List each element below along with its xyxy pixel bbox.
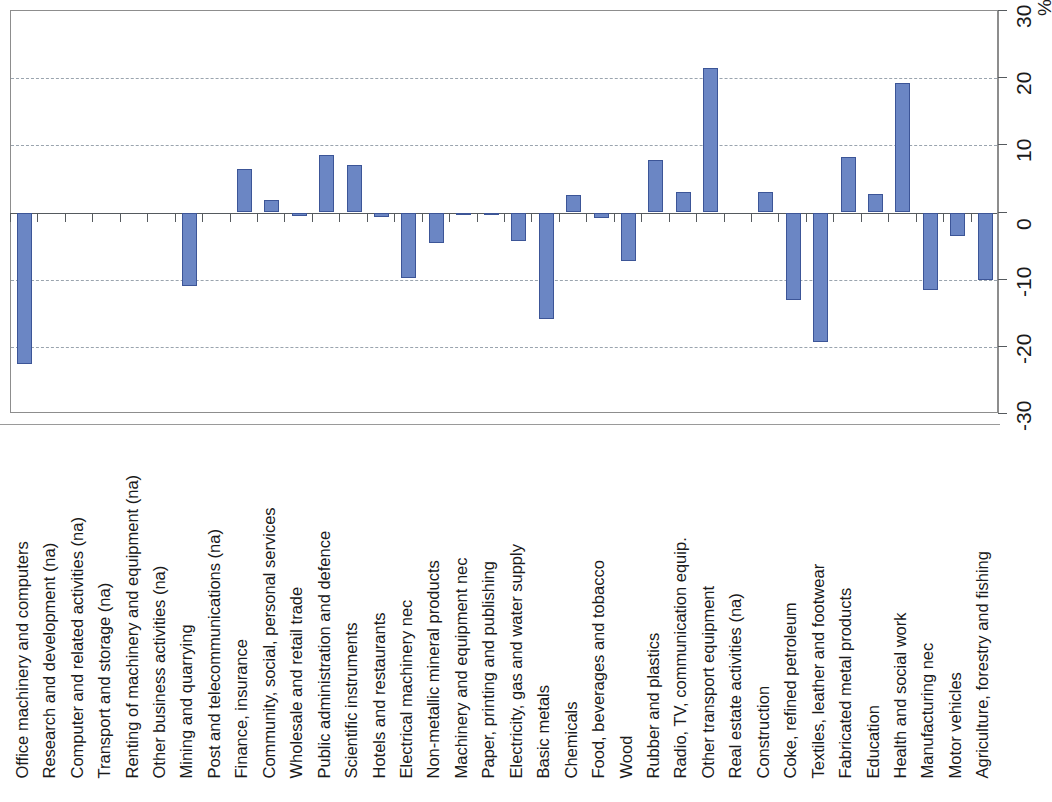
- x-tick: [312, 213, 313, 222]
- category-label: Motor vehicles: [946, 672, 963, 778]
- category-label: Community, social, personal services: [260, 507, 277, 778]
- x-tick: [202, 213, 203, 222]
- category-label: Finance, insurance: [233, 639, 250, 778]
- x-tick: [614, 213, 615, 222]
- bar: [923, 213, 938, 290]
- category-label: Real estate activities (na): [727, 593, 744, 778]
- category-label: Electrical machinery nec: [397, 599, 414, 778]
- category-label: Health and social work: [891, 612, 908, 778]
- x-tick: [175, 213, 176, 222]
- bar: [264, 200, 279, 212]
- bar: [676, 192, 691, 212]
- y-tick: [998, 346, 1007, 347]
- bar: [594, 213, 609, 218]
- category-label: Electricity, gas and water supply: [507, 544, 524, 778]
- bar: [456, 213, 471, 216]
- chart-sheet: 3020100-10-20-30 % Office machinery and …: [0, 0, 1052, 802]
- x-tick: [778, 213, 779, 222]
- x-tick: [696, 213, 697, 222]
- x-tick: [669, 213, 670, 222]
- x-tick: [751, 213, 752, 222]
- bar: [868, 194, 883, 213]
- x-tick: [531, 213, 532, 222]
- x-tick: [916, 213, 917, 222]
- y-tick-label: 10: [1012, 139, 1036, 162]
- y-tick-label: 0: [1012, 218, 1036, 230]
- x-tick: [449, 213, 450, 222]
- x-tick: [724, 213, 725, 222]
- x-tick: [147, 213, 148, 222]
- y-tick-label: 20: [1012, 72, 1036, 95]
- y-tick-label: -10: [1012, 266, 1036, 296]
- category-label: Wood: [617, 735, 634, 778]
- y-axis-unit-label: %: [1034, 0, 1052, 16]
- y-axis: 3020100-10-20-30 %: [998, 10, 1052, 413]
- x-tick: [394, 213, 395, 222]
- bar: [347, 165, 362, 212]
- bar: [401, 213, 416, 278]
- category-label: Office machinery and computers: [13, 541, 30, 778]
- bar: [703, 68, 718, 212]
- bar: [539, 213, 554, 319]
- bar: [648, 160, 663, 212]
- category-label: Non-metallic mineral products: [425, 560, 442, 778]
- bar: [758, 192, 773, 212]
- category-label: Food, beverages and tobacco: [590, 560, 607, 778]
- category-label: Coke, refined petroleum: [782, 602, 799, 778]
- x-tick: [641, 213, 642, 222]
- category-label: Research and development (na): [41, 542, 58, 778]
- x-tick: [861, 213, 862, 222]
- category-label: Mining and quarrying: [178, 624, 195, 778]
- y-tick: [998, 212, 1007, 213]
- x-tick: [230, 213, 231, 222]
- bar: [17, 213, 32, 364]
- x-tick: [422, 213, 423, 222]
- category-label: Textiles, leather and footwear: [809, 563, 826, 778]
- bar: [374, 213, 389, 218]
- category-axis-labels: Office machinery and computersResearch a…: [10, 418, 998, 778]
- bar: [950, 213, 965, 237]
- bar: [621, 213, 636, 261]
- category-label: Machinery and equipment nec: [452, 557, 469, 778]
- y-tick: [998, 77, 1007, 78]
- y-tick: [998, 279, 1007, 280]
- y-tick-label: 30: [1012, 5, 1036, 28]
- bar: [237, 169, 252, 213]
- bars-layer: [11, 11, 997, 412]
- category-label: Manufacturing nec: [919, 642, 936, 778]
- category-label: Hotels and restaurants: [370, 612, 387, 778]
- x-tick: [806, 213, 807, 222]
- bar: [319, 155, 334, 212]
- x-tick: [559, 213, 560, 222]
- category-label: Scientific instruments: [343, 622, 360, 778]
- category-label: Rubber and plastics: [644, 632, 661, 778]
- x-tick: [10, 213, 11, 222]
- category-label: Basic metals: [535, 684, 552, 778]
- category-label: Public administration and defence: [315, 530, 332, 778]
- category-label: Education: [864, 705, 881, 778]
- x-tick: [65, 213, 66, 222]
- bar: [786, 213, 801, 300]
- bar: [484, 213, 499, 215]
- bar: [841, 157, 856, 213]
- x-tick: [367, 213, 368, 222]
- category-label: Renting of machinery and equipment (na): [123, 474, 140, 778]
- category-label: Computer and related activities (na): [68, 517, 85, 778]
- category-label: Paper, printing and publishing: [480, 561, 497, 778]
- x-tick: [284, 213, 285, 222]
- x-tick: [37, 213, 38, 222]
- category-label: Fabricated metal products: [837, 587, 854, 778]
- bar: [292, 213, 307, 216]
- category-label: Construction: [754, 685, 771, 778]
- y-tick-label: -30: [1012, 401, 1036, 431]
- x-tick: [477, 213, 478, 222]
- x-tick: [888, 213, 889, 222]
- x-tick: [943, 213, 944, 222]
- x-tick: [586, 213, 587, 222]
- bar: [511, 213, 526, 241]
- bar: [182, 213, 197, 287]
- category-label: Other transport equipment: [699, 585, 716, 778]
- y-tick-label: -20: [1012, 333, 1036, 363]
- category-label: Agriculture, forestry and fishing: [974, 551, 991, 778]
- category-label: Wholesale and retail trade: [288, 586, 305, 778]
